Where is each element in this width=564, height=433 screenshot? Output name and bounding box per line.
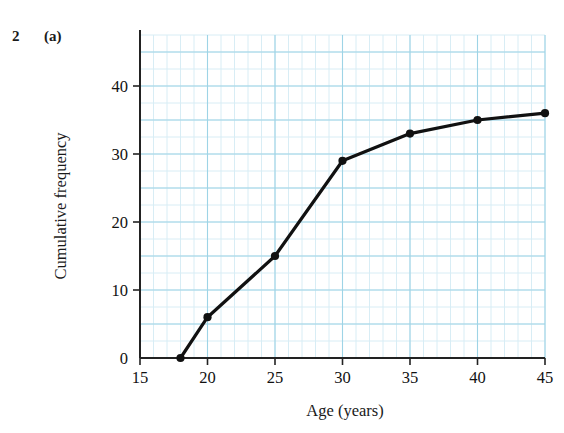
svg-text:15: 15 (132, 368, 149, 387)
svg-text:0: 0 (120, 349, 128, 368)
major-gridlines (140, 35, 545, 358)
svg-text:40: 40 (112, 77, 129, 96)
svg-text:30: 30 (112, 145, 129, 164)
y-axis-tick-labels: 010203040 (112, 77, 129, 368)
svg-text:10: 10 (112, 281, 129, 300)
svg-text:40: 40 (469, 368, 486, 387)
y-axis-label: Cumulative frequency (51, 106, 71, 306)
svg-text:20: 20 (199, 368, 216, 387)
x-axis-ticks (140, 358, 545, 365)
svg-text:35: 35 (402, 368, 419, 387)
svg-text:20: 20 (112, 213, 129, 232)
cumulative-frequency-chart: 15202530354045 010203040 (0, 0, 564, 433)
y-axis-ticks (133, 86, 140, 290)
x-axis-tick-labels: 15202530354045 (132, 368, 554, 387)
x-axis-label: Age (years) (245, 401, 445, 421)
worksheet-page: 2 (a) 15202530354045 010203040 Cumulativ… (0, 0, 564, 433)
svg-text:30: 30 (334, 368, 351, 387)
svg-text:45: 45 (537, 368, 554, 387)
cumulative-frequency-curve (181, 113, 546, 358)
svg-text:25: 25 (267, 368, 284, 387)
